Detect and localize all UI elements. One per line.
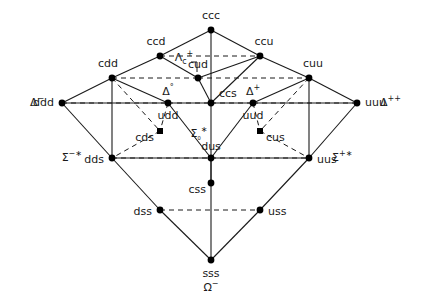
quark-label-ccc: ccc [171,10,251,21]
solid-edge [211,210,260,260]
particle-label-delta-plusplus: Δ++ [380,97,401,108]
node-cus[interactable] [257,128,263,134]
node-cuu[interactable] [306,75,313,82]
node-ccs[interactable] [208,100,215,107]
quark-label-ccu: ccu [224,36,304,47]
node-udd[interactable] [165,100,172,107]
quark-label-cds: cds [0,132,154,143]
quark-label-cuu: cuu [273,58,353,69]
quark-label-css: css [0,184,206,195]
particle-label-omega-minus: Ω− [171,282,251,293]
diagram-canvas: cccccdccucddcudcuuddduddccsuuduuucdscusd… [0,0,430,306]
node-cdd[interactable] [109,75,116,82]
node-uss[interactable] [257,207,264,214]
node-dus[interactable] [208,155,215,162]
node-cud[interactable] [195,75,202,82]
node-uud[interactable] [250,100,257,107]
node-sss[interactable] [208,257,215,264]
solid-edge [260,158,309,210]
node-dds[interactable] [109,155,116,162]
quark-label-ccd: ccd [116,36,196,47]
solid-edge [62,78,112,103]
node-ddd[interactable] [59,100,66,107]
node-css[interactable] [208,180,215,187]
quark-label-sss: sss [171,268,251,279]
particle-label-delta-zero: Δ° [128,86,208,97]
node-uuu[interactable] [354,100,361,107]
particle-label-lambda-c-plus: Λc+ [144,52,224,63]
node-uus[interactable] [306,155,313,162]
particle-label-sigma-plus-star: Σ+∗ [332,152,352,163]
particle-label-sigma-zero-star: Σ₀∗ [159,128,239,139]
quark-label-uud: uud [213,110,293,121]
quark-label-udd: udd [128,110,208,121]
node-ccc[interactable] [208,27,215,34]
quark-label-ddd: ddd [0,97,54,108]
quark-label-uss: uss [268,206,286,217]
solid-edge [309,78,357,103]
particle-label-delta-plus: Δ+ [213,86,293,97]
quark-label-cdd: cdd [68,58,148,69]
particle-label-delta-minus: Δ− [30,97,44,108]
quark-label-dus: dus [171,141,251,152]
quark-label-cus: cus [266,132,285,143]
node-ccu[interactable] [257,53,264,60]
quark-label-dss: dss [0,206,152,217]
particle-label-sigma-minus-star: Σ−∗ [0,152,82,163]
node-dss[interactable] [157,207,164,214]
solid-edge [160,210,211,260]
